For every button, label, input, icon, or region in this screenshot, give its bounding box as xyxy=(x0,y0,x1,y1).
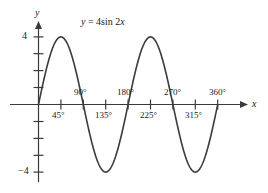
y-tick-label-minus-4: −4 xyxy=(18,166,29,176)
x-tick-label-360: 360° xyxy=(209,88,226,97)
equation-func: sin xyxy=(101,16,113,27)
y-axis-label: y xyxy=(35,8,39,18)
x-tick-label-225: 225° xyxy=(140,111,157,120)
x-tick-label-315: 315° xyxy=(185,111,202,120)
x-tick-label-270: 270° xyxy=(164,88,181,97)
x-axis-label: x xyxy=(252,99,256,109)
equation-annotation: y = 4sin 2x xyxy=(81,17,125,27)
x-tick-label-180: 180° xyxy=(117,88,134,97)
x-tick-label-45: 45° xyxy=(52,111,65,120)
y-tick-label-4: 4 xyxy=(22,31,27,41)
equation-variable: x xyxy=(120,16,124,27)
trig-graph-figure: y = 4sin 2x y x 4 −4 90° 180° 270° 360° … xyxy=(0,0,268,193)
x-tick-label-90: 90° xyxy=(74,88,87,97)
x-tick-label-135: 135° xyxy=(95,111,112,120)
